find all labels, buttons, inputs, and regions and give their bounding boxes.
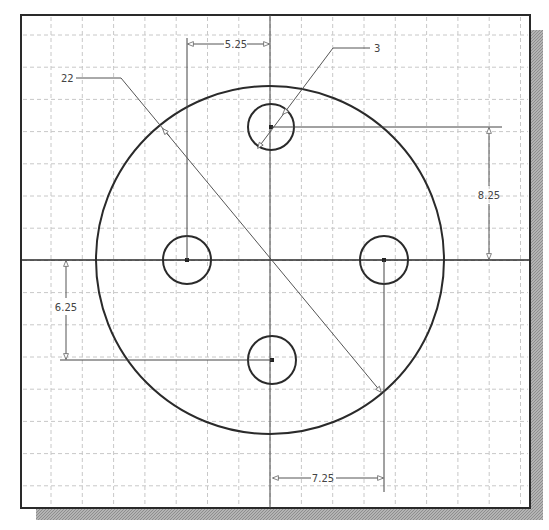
dimension-label: 3 — [374, 43, 380, 54]
dimension-label: 6.25 — [55, 302, 77, 313]
cad-drawing: 5.25 8.25 6.25 7.25 3 22 — [0, 0, 549, 530]
dimension-label: 7.25 — [312, 473, 334, 484]
dimension-label: 5.25 — [225, 39, 247, 50]
dimension-label: 22 — [61, 73, 74, 84]
dimension-label: 8.25 — [478, 190, 500, 201]
